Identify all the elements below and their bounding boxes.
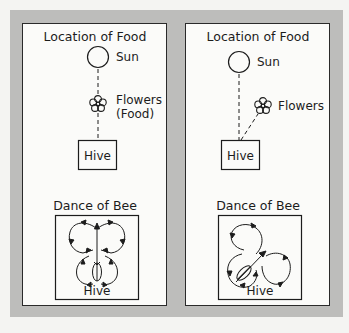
panel-title: Location of Food (44, 29, 147, 44)
flower-icon (255, 98, 271, 114)
dance-title: Dance of Bee (216, 198, 300, 213)
bee-icon (93, 262, 102, 281)
sun-label: Sun (116, 50, 139, 64)
panel-food-angled: Location of Food Sun Flowers Hive Dance … (185, 23, 330, 306)
diagram-right: Location of Food Sun Flowers Hive Dance … (186, 24, 331, 307)
hive-label: Hive (227, 149, 254, 163)
dance-hive-label: Hive (247, 284, 274, 298)
flower-icon (90, 96, 106, 112)
sun-label: Sun (257, 55, 280, 69)
flower-label: Flowers (278, 99, 324, 113)
dance-hive-label: Hive (84, 284, 111, 298)
hive-label: Hive (84, 149, 111, 163)
bee-icon (234, 263, 253, 282)
sun-icon (88, 47, 109, 68)
panel-food-toward-sun: Location of Food Sun Flowers (Food) Hive… (22, 23, 167, 306)
flower-label-food: (Food) (116, 107, 154, 121)
sun-icon (229, 52, 250, 73)
diagram-left: Location of Food Sun Flowers (Food) Hive… (23, 24, 168, 307)
food-direction-line (241, 114, 258, 140)
flower-label: Flowers (116, 93, 162, 107)
panel-title: Location of Food (207, 29, 310, 44)
dance-title: Dance of Bee (53, 198, 137, 213)
